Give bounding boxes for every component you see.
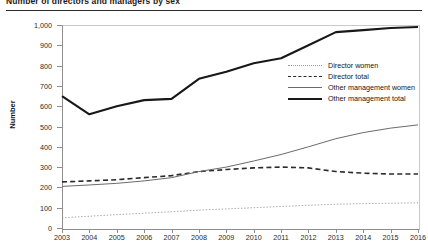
x-tick-mark xyxy=(391,229,392,233)
legend-label: Other management total xyxy=(328,93,406,104)
y-tick-mark xyxy=(57,45,62,46)
legend-swatch-dotted xyxy=(288,65,322,66)
x-tick-label: 2010 xyxy=(246,233,262,242)
x-tick-label: 2006 xyxy=(136,233,152,242)
y-tick-mark xyxy=(57,147,62,148)
legend-swatch-thick-solid xyxy=(288,98,322,100)
chart-title: Number of directors and managers by sex xyxy=(6,0,422,6)
x-tick-mark xyxy=(62,229,63,233)
x-tick-mark xyxy=(117,229,118,233)
y-tick-mark xyxy=(57,25,62,26)
x-tick-mark xyxy=(308,229,309,233)
y-tick-mark xyxy=(57,208,62,209)
x-tick-label: 2016 xyxy=(410,233,426,242)
x-tick-label: 2004 xyxy=(81,233,97,242)
y-tick-mark xyxy=(57,106,62,107)
y-tick-label: 300 xyxy=(40,163,52,172)
legend-swatch-dashed xyxy=(288,76,322,77)
y-tick-mark xyxy=(57,167,62,168)
y-tick-label: 800 xyxy=(40,61,52,70)
y-tick-mark xyxy=(57,127,62,128)
x-tick-mark xyxy=(336,229,337,233)
x-tick-mark xyxy=(363,229,364,233)
legend-swatch-thin-solid xyxy=(288,87,322,88)
x-tick-mark xyxy=(199,229,200,233)
x-tick-label: 2013 xyxy=(328,233,344,242)
x-tick-label: 2007 xyxy=(164,233,180,242)
legend-label: Other management women xyxy=(328,82,415,93)
y-tick-mark xyxy=(57,86,62,87)
x-tick-mark xyxy=(418,229,419,233)
title-divider xyxy=(6,10,422,11)
x-tick-label: 2012 xyxy=(300,233,316,242)
x-tick-mark xyxy=(281,229,282,233)
plot-area xyxy=(62,25,420,230)
y-tick-label: 500 xyxy=(40,122,52,131)
x-tick-label: 2015 xyxy=(383,233,399,242)
y-tick-label: 900 xyxy=(40,41,52,50)
y-tick-label: 100 xyxy=(40,203,52,212)
x-tick-label: 2008 xyxy=(191,233,207,242)
x-tick-label: 2005 xyxy=(109,233,125,242)
x-tick-label: 2011 xyxy=(273,233,288,242)
y-tick-label: 600 xyxy=(40,102,52,111)
y-tick-label: 200 xyxy=(40,183,52,192)
x-tick-label: 2014 xyxy=(355,233,371,242)
y-tick-label: 0 xyxy=(48,224,52,233)
x-tick-mark xyxy=(254,229,255,233)
x-tick-mark xyxy=(226,229,227,233)
x-tick-mark xyxy=(172,229,173,233)
x-tick-label: 2009 xyxy=(218,233,234,242)
y-tick-label: 400 xyxy=(40,142,52,151)
y-tick-mark xyxy=(57,187,62,188)
y-tick-label: 1,000 xyxy=(34,21,52,30)
x-tick-label: 2003 xyxy=(54,233,70,242)
y-tick-mark xyxy=(57,66,62,67)
y-axis-tick-labels: 01002003004005006007008009001,000 xyxy=(0,0,60,252)
legend-label: Director women xyxy=(328,60,378,71)
y-tick-label: 700 xyxy=(40,81,52,90)
legend-label: Director total xyxy=(328,71,369,82)
x-tick-mark xyxy=(144,229,145,233)
x-tick-mark xyxy=(89,229,90,233)
